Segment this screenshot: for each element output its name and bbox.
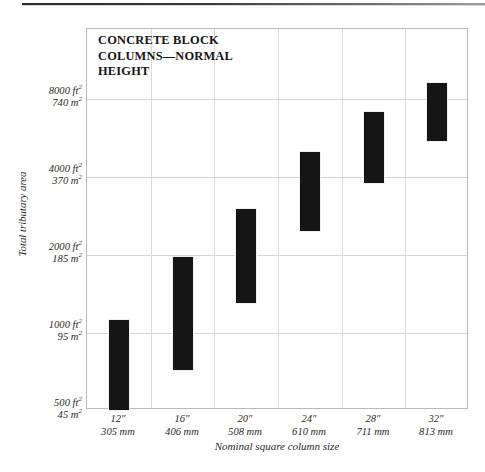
- gridline-y-4000: [87, 177, 467, 178]
- gridline-x-3: [278, 29, 279, 408]
- y-tick-metric: 740 m2: [52, 97, 82, 108]
- y-tick-metric: 45 m2: [58, 409, 82, 420]
- x-tick-inches: 28": [365, 413, 380, 424]
- x-tick-inches: 32": [428, 413, 443, 424]
- gridline-x-1: [151, 29, 152, 408]
- y-tick-imperial: 1000 ft2: [49, 319, 82, 330]
- x-tick-inches: 24": [301, 413, 316, 424]
- y-axis-title: Total tributary area: [16, 149, 28, 279]
- y-tick-metric: 370 m2: [52, 175, 82, 186]
- x-tick-metric: 610 mm: [292, 426, 326, 437]
- y-tick-imperial: 500 ft2: [54, 397, 82, 408]
- x-tick-label-5: 32"813 mm: [400, 412, 472, 439]
- x-tick-inches: 16": [174, 413, 189, 424]
- bar-32in: [426, 82, 448, 142]
- gridline-x-4: [342, 29, 343, 408]
- bar-16in: [172, 256, 194, 371]
- bar-24in: [299, 151, 321, 232]
- y-tick-label-500: 500 ft245 m2: [4, 397, 82, 422]
- x-tick-metric: 406 mm: [165, 426, 199, 437]
- gridline-x-5: [405, 29, 406, 408]
- bar-20in: [235, 208, 257, 304]
- gridline-y-1000: [87, 333, 467, 334]
- chart-figure: CONCRETE BLOCK COLUMNS—NORMAL HEIGHT 800…: [0, 0, 485, 472]
- x-tick-metric: 813 mm: [419, 426, 453, 437]
- y-tick-imperial: 8000 ft2: [49, 85, 82, 96]
- x-tick-metric: 711 mm: [356, 426, 389, 437]
- y-tick-label-8000: 8000 ft2740 m2: [4, 85, 82, 110]
- y-tick-metric: 185 m2: [52, 253, 82, 264]
- gridline-y-8000: [87, 99, 467, 100]
- x-tick-metric: 305 mm: [101, 426, 135, 437]
- y-tick-imperial: 2000 ft2: [49, 241, 82, 252]
- bar-28in: [363, 111, 385, 184]
- gridline-y-2000: [87, 255, 467, 256]
- x-tick-label-0: 12"305 mm: [82, 412, 154, 439]
- y-tick-label-1000: 1000 ft295 m2: [4, 319, 82, 344]
- x-axis-title: Nominal square column size: [86, 440, 468, 452]
- x-tick-label-4: 28"711 mm: [337, 412, 409, 439]
- x-tick-inches: 20": [237, 413, 252, 424]
- y-tick-metric: 95 m2: [58, 331, 82, 342]
- bar-12in: [108, 319, 130, 411]
- x-tick-inches: 12": [110, 413, 125, 424]
- x-tick-label-1: 16"406 mm: [146, 412, 218, 439]
- chart-title: CONCRETE BLOCK COLUMNS—NORMAL HEIGHT: [98, 33, 298, 80]
- y-axis-tick-labels: 8000 ft2740 m24000 ft2370 m22000 ft2185 …: [0, 0, 82, 472]
- gridline-x-2: [214, 29, 215, 408]
- x-tick-label-2: 20"508 mm: [209, 412, 281, 439]
- x-tick-metric: 508 mm: [228, 426, 262, 437]
- x-tick-label-3: 24"610 mm: [273, 412, 345, 439]
- y-tick-imperial: 4000 ft2: [49, 163, 82, 174]
- plot-area: [86, 28, 468, 409]
